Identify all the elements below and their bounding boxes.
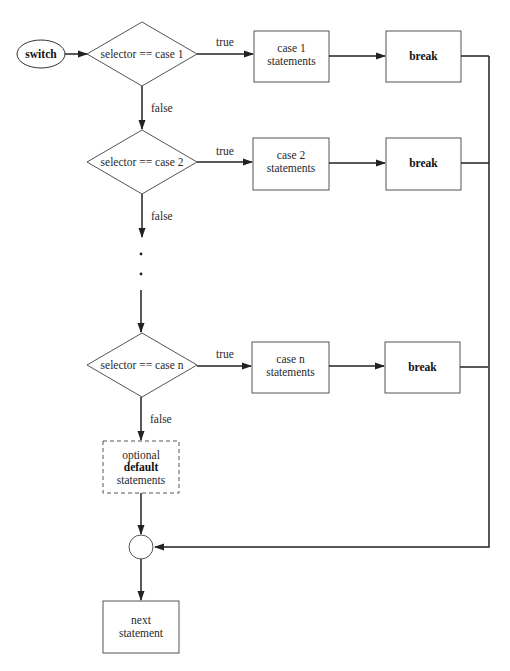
statements-case-2-line2: statements <box>267 162 316 174</box>
break-box-case-n: break <box>385 342 460 393</box>
decision-case-1: selector == case 1 <box>87 22 197 86</box>
statements-box-case-1: case 1 statements <box>254 31 329 82</box>
false-label-case-2: false <box>151 210 173 222</box>
break-label-case-2: break <box>409 157 438 169</box>
true-label-case-n: true <box>216 348 234 360</box>
statements-box-case-n: case n statements <box>252 342 329 393</box>
switch-start-node: switch <box>17 40 65 68</box>
switch-flowchart: switch selector == case 1 true case 1 st… <box>0 0 510 671</box>
join-connector-circle <box>129 535 153 559</box>
decision-case-2: selector == case 2 <box>87 130 197 194</box>
break-box-case-1: break <box>386 31 461 82</box>
next-line2: statement <box>119 627 164 639</box>
statements-box-case-2: case 2 statements <box>253 138 329 190</box>
statements-case-2-line1: case 2 <box>277 149 306 161</box>
condition-case-2: selector == case 2 <box>101 156 184 168</box>
statements-case-n-line1: case n <box>276 353 305 365</box>
ellipsis-dot-2 <box>140 273 143 276</box>
default-statements-box: optional default statements <box>103 441 179 493</box>
next-statement-box: next statement <box>103 601 179 653</box>
statements-case-1-line1: case 1 <box>277 42 306 54</box>
statements-case-n-line2: statements <box>266 366 315 378</box>
next-line1: next <box>131 614 152 626</box>
condition-case-1: selector == case 1 <box>101 48 184 60</box>
break-box-case-2: break <box>386 138 461 190</box>
break-label-case-1: break <box>409 50 438 62</box>
decision-case-n: selector == case n <box>87 333 197 397</box>
statements-case-1-line2: statements <box>267 55 316 67</box>
return-line-to-join <box>155 56 489 547</box>
false-label-case-1: false <box>151 102 173 114</box>
true-label-case-2: true <box>216 145 234 157</box>
default-line2: default <box>124 461 159 473</box>
ellipsis-dot-1 <box>140 253 143 256</box>
false-label-case-n: false <box>150 413 172 425</box>
break-label-case-n: break <box>408 361 437 373</box>
condition-case-n: selector == case n <box>101 359 184 371</box>
switch-label: switch <box>25 48 57 60</box>
default-line3: statements <box>117 474 166 486</box>
true-label-case-1: true <box>216 36 234 48</box>
